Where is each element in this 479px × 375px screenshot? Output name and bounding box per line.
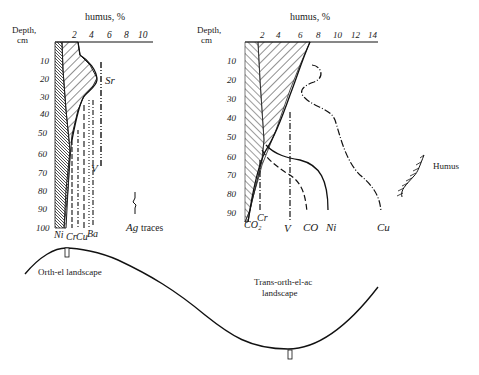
left-label-ni: Ni — [53, 229, 64, 240]
svg-text:4: 4 — [89, 30, 94, 40]
svg-text:8: 8 — [316, 30, 321, 40]
svg-text:30: 30 — [226, 94, 237, 104]
left-label-ba: Ba — [87, 228, 98, 239]
svg-text:10: 10 — [227, 56, 237, 66]
humus-legend-swatch-icon — [402, 155, 424, 197]
trans-orth-el-ac-label-2: landscape — [262, 288, 297, 298]
svg-text:30: 30 — [39, 92, 50, 102]
left-label-sr: Sr — [105, 74, 116, 86]
orth-el-landscape-label: Orth-el landscape — [38, 267, 102, 277]
svg-text:14: 14 — [368, 30, 378, 40]
svg-text:60: 60 — [38, 149, 48, 159]
svg-text:50: 50 — [38, 128, 48, 138]
right-label-cr: Cr — [257, 212, 268, 223]
right-x-ticks: 2 4 6 8 10 12 14 — [260, 30, 378, 40]
soil-profile-diagram: humus, % Depth, cm 2 4 6 8 10 10 20 30 4… — [0, 0, 479, 375]
svg-text:10: 10 — [138, 30, 148, 40]
svg-text:6: 6 — [107, 30, 112, 40]
svg-text:4: 4 — [276, 30, 281, 40]
ag-traces-label: traces — [141, 223, 163, 233]
right-label-cu: Cu — [377, 221, 390, 233]
left-label-cu: Cu — [76, 231, 88, 242]
svg-text:90: 90 — [227, 208, 237, 218]
svg-text:10: 10 — [40, 56, 50, 66]
left-depth-ticks: 10 20 30 40 50 60 70 80 90 100 — [36, 56, 50, 233]
svg-text:90: 90 — [38, 204, 48, 214]
right-depth-label: Depth, — [197, 25, 221, 35]
svg-text:60: 60 — [227, 152, 237, 162]
ag-symbol: Ag — [125, 221, 139, 233]
svg-text:80: 80 — [227, 189, 237, 199]
right-axis-title: humus, % — [290, 11, 330, 22]
left-x-ticks: 2 4 6 8 10 — [72, 30, 148, 40]
svg-text:70: 70 — [227, 170, 237, 180]
svg-text:20: 20 — [227, 75, 237, 85]
svg-text:40: 40 — [227, 113, 237, 123]
svg-text:40: 40 — [40, 109, 50, 119]
ag-traces-marker-icon — [133, 192, 136, 214]
humus-legend-label: Humus — [433, 161, 460, 171]
terrain-curve — [25, 248, 378, 349]
svg-text:100: 100 — [36, 223, 50, 233]
left-depth-unit: cm — [17, 35, 28, 45]
left-axis-title: humus, % — [85, 11, 125, 22]
svg-text:2: 2 — [260, 30, 265, 40]
svg-text:70: 70 — [38, 168, 48, 178]
left-depth-label: Depth, — [12, 25, 36, 35]
svg-text:6: 6 — [298, 30, 303, 40]
right-depth-ticks: 10 20 30 40 50 60 70 80 90 — [226, 56, 237, 218]
right-label-ni: Ni — [325, 221, 336, 233]
right-label-v: V — [284, 222, 292, 234]
landscape-profile: Orth-el landscape Trans-orth-el-ac lands… — [25, 248, 378, 359]
svg-text:20: 20 — [40, 74, 50, 84]
right-label-co: CO — [303, 221, 318, 233]
right-profile: humus, % Depth, cm 2 4 6 8 10 12 14 10 2… — [197, 11, 390, 234]
svg-text:8: 8 — [124, 30, 129, 40]
svg-text:10: 10 — [333, 30, 343, 40]
trans-orth-el-ac-label-1: Trans-orth-el-ac — [254, 277, 312, 287]
left-profile: humus, % Depth, cm 2 4 6 8 10 10 20 30 4… — [12, 11, 163, 242]
humus-legend: Humus — [397, 155, 460, 197]
right-depth-unit: cm — [201, 35, 212, 45]
svg-text:80: 80 — [38, 186, 48, 196]
left-soil-pit-marker — [65, 248, 69, 257]
svg-text:12: 12 — [351, 30, 361, 40]
right-soil-pit-marker — [288, 350, 292, 359]
left-label-v: V — [91, 162, 99, 174]
svg-text:50: 50 — [227, 132, 237, 142]
svg-text:2: 2 — [72, 30, 77, 40]
